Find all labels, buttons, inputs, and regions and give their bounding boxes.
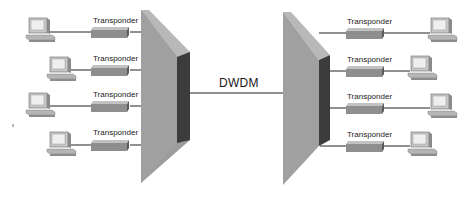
- transponder-icon: [346, 28, 384, 39]
- transponder-icon: [91, 140, 129, 151]
- transponder-icon: [91, 27, 129, 38]
- computer-icon: [26, 18, 55, 42]
- transponder-label-right-4: Transponder: [347, 130, 392, 139]
- transponder-icon: [91, 65, 129, 76]
- computer-icon: [47, 57, 76, 81]
- computer-icon: [26, 93, 55, 117]
- transponder-label-left-2: Transponder: [93, 54, 138, 63]
- transponder-label-right-2: Transponder: [347, 55, 392, 64]
- transponder-label-left-4: Transponder: [93, 128, 138, 137]
- transponder-label-left-3: Transponder: [93, 90, 138, 99]
- transponder-label-right-3: Transponder: [347, 92, 392, 101]
- dwdm-label: DWDM: [219, 76, 259, 90]
- computer-icon: [408, 132, 437, 156]
- transponder-icon: [346, 103, 384, 114]
- dwdm-diagram: [0, 0, 470, 198]
- transponder-icon: [346, 66, 384, 77]
- transponder-label-left-1: Transponder: [93, 16, 138, 25]
- transponder-label-right-1: Transponder: [347, 17, 392, 26]
- computer-icon: [428, 94, 457, 118]
- right-mux: [283, 12, 330, 185]
- left-mux: [141, 10, 190, 183]
- computer-icon: [428, 18, 457, 42]
- computer-icon: [408, 56, 437, 80]
- computer-icon: [47, 132, 76, 156]
- transponder-icon: [91, 101, 129, 112]
- transponder-icon: [346, 141, 384, 152]
